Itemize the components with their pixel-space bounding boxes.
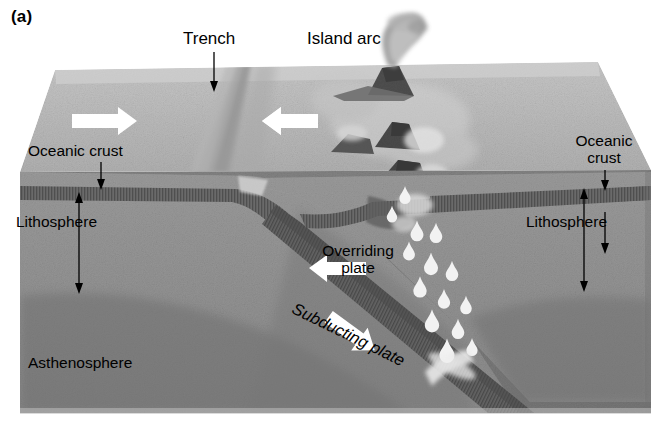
figure-container: (a) Trench Island arc Oceanic crust Ocea… (0, 0, 655, 424)
label-lithosphere-left: Lithosphere (16, 214, 97, 231)
front-face-group (20, 170, 651, 413)
label-asthenosphere: Asthenosphere (28, 355, 132, 372)
block-base-strip (20, 408, 651, 414)
right-side-face (645, 170, 651, 413)
label-oceanic-crust-right: Oceanic crust (565, 133, 643, 166)
label-oceanic-crust-left: Oceanic crust (28, 143, 123, 160)
panel-label: (a) (11, 8, 32, 26)
label-overriding-plate: Overriding plate (303, 243, 413, 276)
label-trench: Trench (183, 30, 235, 48)
volcanic-plume (382, 13, 428, 69)
label-island-arc: Island arc (307, 30, 381, 48)
label-lithosphere-right: Lithosphere (526, 214, 607, 231)
